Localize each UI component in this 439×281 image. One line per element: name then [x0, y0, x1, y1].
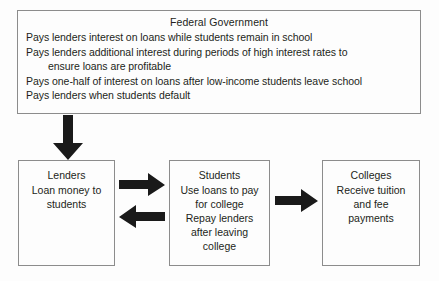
students-title: Students — [170, 167, 269, 183]
lenders-line-1: Loan money to — [19, 183, 114, 197]
colleges-line-2: and fee — [323, 197, 419, 211]
students-line-5: college — [170, 239, 269, 253]
lenders-box: Lenders Loan money to students — [18, 160, 115, 266]
arrow-down-government-to-lenders-icon — [52, 115, 84, 161]
lenders-line-2: students — [19, 197, 114, 211]
students-line-2: for college — [170, 197, 269, 211]
students-line-4: after leaving — [170, 225, 269, 239]
diagram-canvas: Federal Government Pays lenders interest… — [0, 0, 439, 281]
students-line-3: Repay lenders — [170, 211, 269, 225]
federal-government-line-3: ensure loans are profitable — [26, 59, 412, 74]
arrow-left-students-to-lenders-icon — [119, 205, 166, 229]
lenders-title: Lenders — [19, 167, 114, 183]
students-box: Students Use loans to pay for college Re… — [169, 160, 270, 266]
arrow-right-lenders-to-students-icon — [119, 173, 166, 197]
federal-government-line-4: Pays one-half of interest on loans after… — [26, 74, 412, 89]
colleges-line-1: Receive tuition — [323, 183, 419, 197]
federal-government-box: Federal Government Pays lenders interest… — [17, 10, 421, 114]
colleges-title: Colleges — [323, 167, 419, 183]
arrow-right-students-to-colleges-icon — [275, 189, 319, 213]
colleges-line-3: payments — [323, 211, 419, 225]
students-line-1: Use loans to pay — [170, 183, 269, 197]
federal-government-line-1: Pays lenders interest on loans while stu… — [26, 30, 412, 45]
federal-government-line-2: Pays lenders additional interest during … — [26, 45, 412, 60]
federal-government-line-5: Pays lenders when students default — [26, 88, 412, 103]
federal-government-title: Federal Government — [26, 15, 412, 30]
colleges-box: Colleges Receive tuition and fee payment… — [322, 160, 420, 266]
